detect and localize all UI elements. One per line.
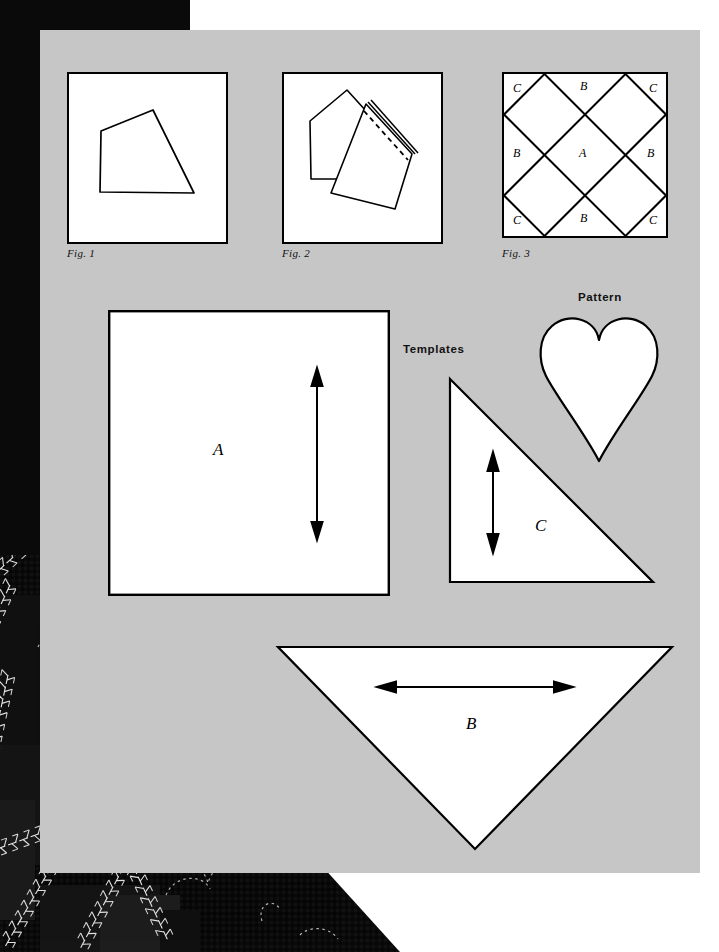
figure-2-caption: Fig. 2	[282, 247, 310, 259]
quilted-fabric-photo-left-band	[0, 30, 40, 590]
template-b-letter: B	[466, 714, 476, 734]
template-b: B	[276, 645, 674, 853]
quilted-fabric-photo-top	[0, 0, 190, 30]
template-a: A	[108, 310, 390, 596]
fig3-cell-top-right: C	[649, 82, 657, 94]
fig3-cell-bottom-right: C	[649, 214, 657, 226]
template-a-letter: A	[213, 440, 223, 460]
pattern-heart	[538, 312, 660, 464]
fig3-cell-center: A	[579, 147, 586, 159]
fig3-cell-top-center: B	[580, 80, 587, 92]
figure-1-box	[67, 72, 228, 244]
fig3-cell-middle-left: B	[513, 147, 520, 159]
figure-1-caption: Fig. 1	[67, 247, 95, 259]
figure-3-caption: Fig. 3	[502, 247, 530, 259]
fig3-cell-bottom-center: B	[580, 212, 587, 224]
page-root: Fig. 1 Fig. 2	[0, 0, 719, 952]
fig3-cell-top-left: C	[513, 82, 521, 94]
fig3-cell-middle-right: B	[647, 147, 654, 159]
figure-2-box	[282, 72, 443, 244]
templates-label: Templates	[403, 343, 464, 355]
template-c-letter: C	[535, 516, 546, 536]
fig3-cell-bottom-left: C	[513, 214, 521, 226]
figure-3-box: C B C B A B C B C	[502, 72, 668, 238]
pattern-label: Pattern	[578, 291, 622, 303]
